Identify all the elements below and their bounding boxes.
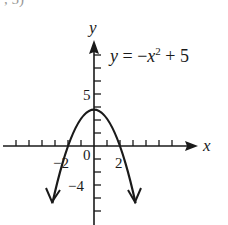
x-tick-label-0: 0 bbox=[83, 148, 91, 163]
equation-label: y = −x2 + 5 bbox=[110, 46, 189, 65]
graph-figure: , 5) bbox=[0, 0, 228, 225]
y-axis-arrow-icon bbox=[89, 40, 99, 54]
x-tick-label-neg2: −2 bbox=[53, 156, 69, 171]
y-tick-label-5: 5 bbox=[83, 88, 91, 103]
curve-left-arrow-icon bbox=[46, 188, 60, 202]
y-axis-label: y bbox=[89, 19, 97, 36]
x-axis-label: x bbox=[203, 137, 211, 154]
y-tick-label-neg4: −4 bbox=[68, 179, 84, 194]
coordinate-plane bbox=[0, 0, 228, 225]
x-tick-label-2: 2 bbox=[115, 156, 123, 171]
y-axis-ticks bbox=[94, 55, 101, 211]
